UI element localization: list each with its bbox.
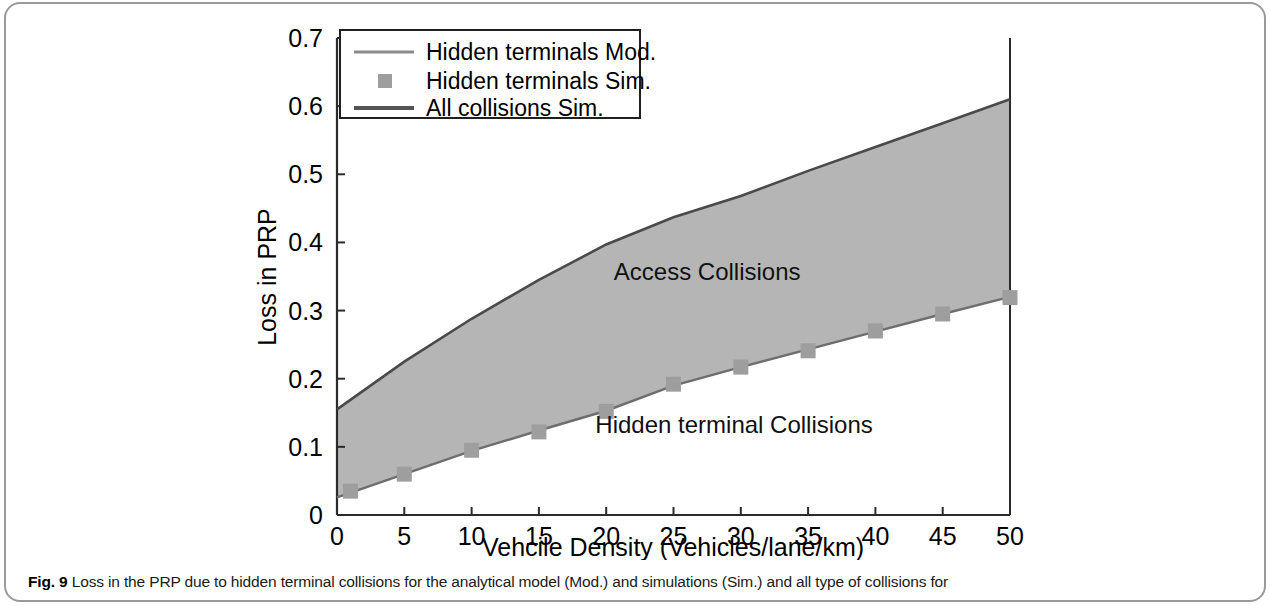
y-axis-title: Loss in PRP bbox=[253, 208, 281, 346]
legend-label-hidden-terminals-sim: Hidden terminals Sim. bbox=[426, 68, 651, 94]
figure-number: Fig. 9 bbox=[28, 573, 68, 590]
chart-canvas: 05101520253035404550 00.10.20.30.40.50.6… bbox=[0, 0, 1270, 560]
data-point-marker bbox=[397, 467, 412, 482]
x-tick-label: 0 bbox=[330, 522, 344, 550]
x-tick-label: 5 bbox=[397, 522, 411, 550]
data-point-marker bbox=[531, 424, 546, 439]
data-point-marker bbox=[1003, 290, 1018, 305]
x-tick-label: 45 bbox=[929, 522, 957, 550]
x-tick-label: 40 bbox=[861, 522, 889, 550]
x-tick-label: 50 bbox=[996, 522, 1024, 550]
annotation-hidden-terminal-collisions: Hidden terminal Collisions bbox=[595, 411, 872, 438]
x-axis-ticks bbox=[337, 507, 1010, 515]
data-point-marker bbox=[935, 306, 950, 321]
annotation-access-collisions: Access Collisions bbox=[614, 258, 801, 285]
data-point-marker bbox=[801, 343, 816, 358]
data-point-marker bbox=[343, 484, 358, 499]
y-tick-label: 0.1 bbox=[288, 433, 323, 461]
figure-caption-text: Loss in the PRP due to hidden terminal c… bbox=[68, 573, 948, 590]
legend-label-all-collisions-sim: All collisions Sim. bbox=[426, 95, 604, 121]
x-axis-title: Vehcile Density (Vehicles/lane/km) bbox=[482, 533, 864, 560]
y-tick-label: 0.5 bbox=[288, 160, 323, 188]
y-tick-label: 0.7 bbox=[288, 24, 323, 52]
data-point-marker bbox=[868, 324, 883, 339]
y-tick-label: 0 bbox=[309, 501, 323, 529]
figure-caption: Fig. 9 Loss in the PRP due to hidden ter… bbox=[28, 572, 1243, 593]
legend-label-hidden-terminals-mod: Hidden terminals Mod. bbox=[426, 39, 656, 65]
y-tick-label: 0.4 bbox=[288, 228, 323, 256]
y-axis-tick-labels: 00.10.20.30.40.50.60.7 bbox=[288, 24, 323, 529]
y-tick-label: 0.2 bbox=[288, 365, 323, 393]
y-tick-label: 0.3 bbox=[288, 297, 323, 325]
data-point-marker bbox=[666, 377, 681, 392]
legend: Hidden terminals Mod. Hidden terminals S… bbox=[340, 30, 656, 121]
y-tick-label: 0.6 bbox=[288, 92, 323, 120]
data-point-marker bbox=[733, 360, 748, 375]
legend-square-marker-icon bbox=[378, 74, 392, 88]
data-point-marker bbox=[464, 443, 479, 458]
figure-area: 05101520253035404550 00.10.20.30.40.50.6… bbox=[0, 0, 1270, 560]
